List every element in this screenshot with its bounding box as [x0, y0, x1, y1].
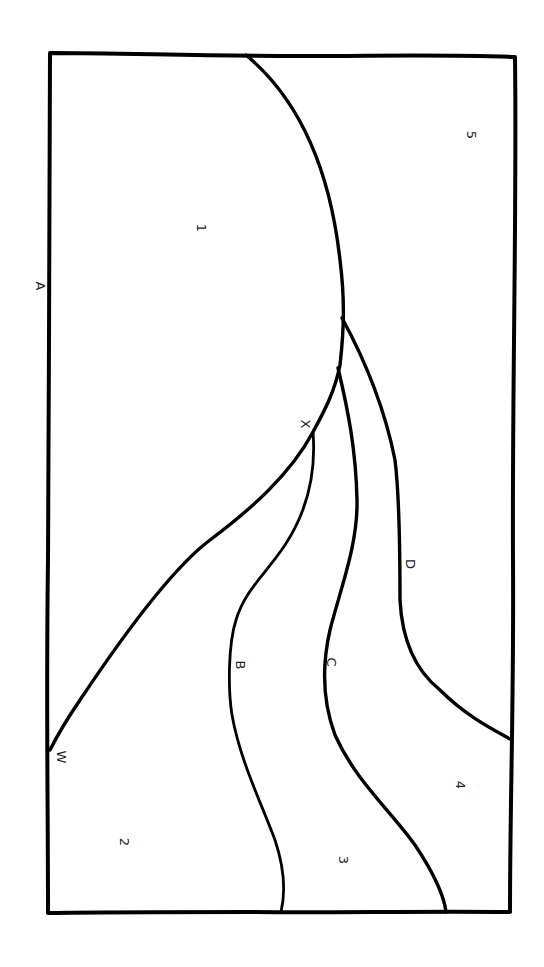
region-label-5: 5 — [464, 131, 479, 139]
main-arc-boundary — [50, 55, 343, 750]
boundary-d — [342, 318, 510, 739]
region-label-4: 4 — [453, 781, 468, 789]
label-x: X — [298, 420, 313, 429]
region-diagram: A X W B C D 1 2 3 4 5 — [0, 0, 544, 967]
label-c: C — [324, 657, 339, 666]
region-label-3: 3 — [336, 856, 351, 864]
boundary-b — [229, 432, 313, 912]
label-d: D — [403, 559, 418, 569]
label-w: W — [54, 751, 69, 764]
region-label-2: 2 — [117, 838, 132, 846]
label-b: B — [233, 661, 248, 670]
region-label-1: 1 — [194, 224, 209, 232]
label-a: A — [33, 282, 48, 291]
boundary-c — [325, 368, 446, 912]
outer-frame — [47, 53, 515, 913]
